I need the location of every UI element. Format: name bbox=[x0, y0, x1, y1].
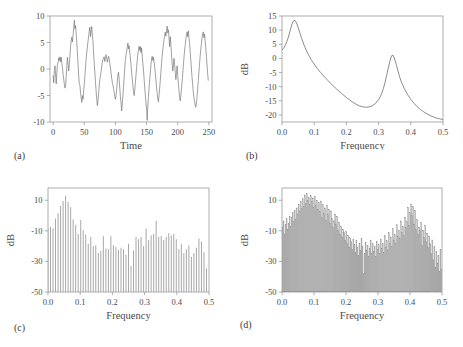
svg-text:10: 10 bbox=[34, 195, 43, 205]
panel-d-label: (d) bbox=[240, 319, 252, 330]
svg-text:0.5: 0.5 bbox=[438, 127, 449, 137]
svg-text:0.3: 0.3 bbox=[373, 297, 384, 307]
figure-panel-grid: 050100150200250-10-50510Time (a) 0.00.10… bbox=[0, 0, 463, 347]
svg-text:-10: -10 bbox=[31, 226, 42, 236]
panel-d: 0.00.10.20.30.40.5-50-30-1010FrequencydB bbox=[232, 174, 463, 324]
svg-text:0.0: 0.0 bbox=[277, 127, 288, 137]
svg-text:0.3: 0.3 bbox=[139, 297, 150, 307]
svg-text:Frequency: Frequency bbox=[106, 310, 151, 321]
svg-text:250: 250 bbox=[203, 127, 216, 137]
svg-text:-10: -10 bbox=[265, 226, 276, 236]
svg-text:0.4: 0.4 bbox=[405, 297, 416, 307]
svg-text:-50: -50 bbox=[31, 287, 42, 297]
svg-text:100: 100 bbox=[109, 127, 122, 137]
svg-text:0.2: 0.2 bbox=[341, 297, 352, 307]
svg-text:0: 0 bbox=[272, 53, 276, 63]
svg-text:0: 0 bbox=[40, 64, 44, 74]
svg-text:150: 150 bbox=[140, 127, 153, 137]
svg-text:-30: -30 bbox=[265, 256, 276, 266]
svg-text:0.0: 0.0 bbox=[43, 297, 54, 307]
svg-text:-10: -10 bbox=[33, 117, 44, 127]
svg-text:0.3: 0.3 bbox=[373, 127, 384, 137]
svg-text:15: 15 bbox=[268, 11, 277, 21]
svg-text:10: 10 bbox=[36, 11, 45, 21]
svg-text:0.1: 0.1 bbox=[75, 297, 86, 307]
panel-c-label: (c) bbox=[14, 322, 25, 333]
svg-text:0.5: 0.5 bbox=[437, 297, 448, 307]
svg-text:dB: dB bbox=[5, 234, 16, 246]
svg-text:Time: Time bbox=[120, 140, 142, 150]
svg-text:-20: -20 bbox=[265, 110, 276, 120]
svg-text:dB: dB bbox=[239, 63, 250, 75]
svg-text:0.0: 0.0 bbox=[277, 297, 288, 307]
panel-b: 0.00.10.20.30.40.5-20-15-10-5051015Frequ… bbox=[232, 0, 463, 150]
svg-text:50: 50 bbox=[80, 127, 89, 137]
svg-text:5: 5 bbox=[40, 38, 44, 48]
svg-text:0: 0 bbox=[51, 127, 55, 137]
svg-text:-5: -5 bbox=[269, 68, 276, 78]
panel-c-plot: 0.00.10.20.30.40.5-50-30-1010FrequencydB bbox=[0, 174, 232, 324]
svg-text:0.2: 0.2 bbox=[107, 297, 118, 307]
svg-text:10: 10 bbox=[268, 195, 277, 205]
panel-b-label: (b) bbox=[246, 150, 258, 161]
svg-text:200: 200 bbox=[171, 127, 184, 137]
svg-text:Frequency: Frequency bbox=[340, 140, 385, 150]
svg-text:-5: -5 bbox=[37, 91, 44, 101]
panel-d-plot: 0.00.10.20.30.40.5-50-30-1010FrequencydB bbox=[232, 174, 463, 324]
panel-a-label: (a) bbox=[14, 150, 25, 161]
svg-text:10: 10 bbox=[268, 25, 277, 35]
panel-a-plot: 050100150200250-10-50510Time bbox=[0, 0, 232, 150]
svg-text:0.4: 0.4 bbox=[405, 127, 416, 137]
panel-c: 0.00.10.20.30.40.5-50-30-1010FrequencydB bbox=[0, 174, 232, 324]
panel-a: 050100150200250-10-50510Time bbox=[0, 0, 232, 150]
svg-text:-50: -50 bbox=[265, 287, 276, 297]
svg-text:dB: dB bbox=[239, 234, 250, 246]
svg-text:-30: -30 bbox=[31, 256, 42, 266]
svg-text:0.1: 0.1 bbox=[309, 297, 320, 307]
svg-text:5: 5 bbox=[272, 39, 276, 49]
svg-text:Frequency: Frequency bbox=[340, 310, 385, 321]
svg-text:0.1: 0.1 bbox=[309, 127, 320, 137]
panel-b-plot: 0.00.10.20.30.40.5-20-15-10-5051015Frequ… bbox=[232, 0, 463, 150]
svg-text:-10: -10 bbox=[265, 82, 276, 92]
svg-text:0.2: 0.2 bbox=[341, 127, 352, 137]
svg-text:0.4: 0.4 bbox=[171, 297, 182, 307]
svg-text:0.5: 0.5 bbox=[204, 297, 215, 307]
svg-text:-15: -15 bbox=[265, 96, 276, 106]
